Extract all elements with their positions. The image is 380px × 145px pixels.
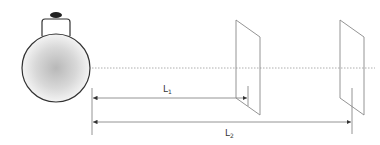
label-L1: L1 bbox=[163, 84, 172, 95]
diagram-canvas: L1 L2 bbox=[0, 0, 380, 145]
bulb-globe bbox=[22, 34, 90, 102]
bulb-tip bbox=[50, 12, 62, 18]
label-L2: L2 bbox=[225, 128, 234, 139]
light-bulb bbox=[22, 12, 90, 102]
